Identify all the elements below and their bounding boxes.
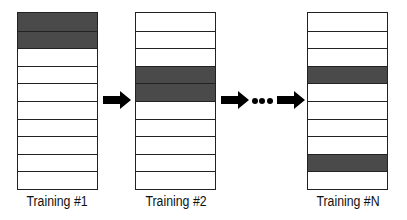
stack-training-1	[17, 12, 98, 190]
stack-row-highlighted	[308, 66, 387, 84]
stack-row	[308, 171, 387, 189]
stack-row	[136, 119, 215, 137]
stack-row	[18, 66, 97, 84]
ellipsis-dot	[252, 98, 258, 104]
arrow-right-icon	[221, 91, 249, 109]
stack-row	[18, 154, 97, 172]
stack-row	[136, 48, 215, 66]
stack-row	[308, 136, 387, 154]
label-training-n: Training #N	[300, 193, 397, 209]
stack-row-highlighted	[136, 83, 215, 101]
stack-row-highlighted	[308, 154, 387, 172]
stack-row	[308, 101, 387, 119]
stack-row	[18, 48, 97, 66]
stack-row	[136, 13, 215, 31]
stack-row	[136, 154, 215, 172]
label-training-1: Training #1	[9, 193, 106, 209]
stack-row	[18, 119, 97, 137]
stack-row-highlighted	[136, 66, 215, 84]
stack-row-highlighted	[18, 31, 97, 49]
stack-row	[18, 136, 97, 154]
stack-row	[18, 83, 97, 101]
stack-row	[308, 31, 387, 49]
stack-row	[136, 31, 215, 49]
stack-training-2	[135, 12, 216, 190]
stack-row	[136, 136, 215, 154]
stack-row	[18, 101, 97, 119]
stack-row	[308, 119, 387, 137]
arrow-right-icon	[103, 91, 131, 109]
stack-row	[136, 101, 215, 119]
stack-row	[308, 13, 387, 31]
stack-row	[18, 171, 97, 189]
ellipsis-dot	[259, 98, 265, 104]
stack-row	[308, 83, 387, 101]
ellipsis-dot	[267, 98, 273, 104]
arrow-right-icon	[277, 91, 305, 109]
stack-training-n	[307, 12, 388, 190]
stack-row	[308, 48, 387, 66]
label-training-2: Training #2	[128, 193, 225, 209]
stack-row-highlighted	[18, 13, 97, 31]
stack-row	[136, 171, 215, 189]
